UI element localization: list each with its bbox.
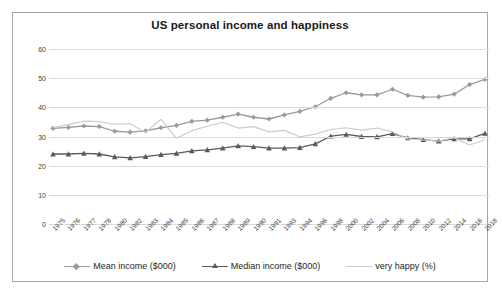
chart-legend: Mean income ($000)Median income ($000)ve… (13, 261, 487, 271)
legend-key-icon (64, 262, 90, 271)
data-point-marker (312, 141, 318, 146)
legend-label: Mean income ($000) (93, 261, 176, 271)
data-point-marker (112, 129, 117, 134)
y-axis-labels: 0102030405060 (13, 49, 46, 224)
data-point-marker (128, 130, 133, 135)
legend-item[interactable]: Median income ($000) (202, 261, 321, 271)
y-axis-tick-label: 0 (16, 221, 46, 228)
data-point-marker (282, 112, 287, 117)
data-point-marker (189, 119, 194, 124)
data-point-marker (359, 92, 364, 97)
chart-frame: US personal income and happiness 0102030… (12, 12, 488, 282)
y-axis-tick-label: 50 (16, 75, 46, 82)
data-point-marker (421, 95, 426, 100)
data-point-marker (205, 118, 210, 123)
data-point-marker (436, 94, 441, 99)
legend-key-icon (346, 262, 372, 271)
data-point-marker (158, 125, 163, 130)
gridline (49, 78, 489, 79)
y-axis-tick-label: 40 (16, 104, 46, 111)
data-point-marker (251, 115, 256, 120)
data-point-marker (390, 87, 395, 92)
legend-label: Median income ($000) (231, 261, 321, 271)
y-axis-tick-label: 20 (16, 162, 46, 169)
data-point-marker (297, 109, 302, 114)
gridline (49, 195, 489, 196)
y-axis-tick-label: 60 (16, 46, 46, 53)
gridline (49, 107, 489, 108)
series-median-income-000- (50, 130, 488, 160)
legend-item[interactable]: Mean income ($000) (64, 261, 176, 271)
legend-key-icon (202, 262, 228, 271)
data-point-marker (220, 115, 225, 120)
data-point-marker (328, 96, 333, 101)
data-point-marker (344, 90, 349, 95)
gridline (49, 49, 489, 50)
data-point-marker (174, 123, 179, 128)
data-point-marker (81, 123, 86, 128)
series-mean-income-000- (50, 77, 487, 135)
data-point-marker (97, 124, 102, 129)
screenshot-page: US personal income and happiness 0102030… (0, 0, 502, 301)
series-line (53, 119, 485, 145)
y-axis-tick-label: 10 (16, 191, 46, 198)
gridline (49, 137, 489, 138)
chart-title: US personal income and happiness (13, 19, 487, 31)
series-very-happy- (53, 119, 485, 145)
data-point-marker (236, 111, 241, 116)
y-axis-tick-label: 30 (16, 133, 46, 140)
data-point-marker (482, 130, 488, 135)
data-point-marker (66, 125, 71, 130)
legend-label: very happy (%) (375, 261, 436, 271)
data-point-marker (374, 92, 379, 97)
data-point-marker (50, 126, 55, 131)
data-point-marker (405, 93, 410, 98)
gridline (49, 166, 489, 167)
plot-area (49, 49, 489, 224)
data-point-marker (266, 116, 271, 121)
legend-item[interactable]: very happy (%) (346, 261, 436, 271)
